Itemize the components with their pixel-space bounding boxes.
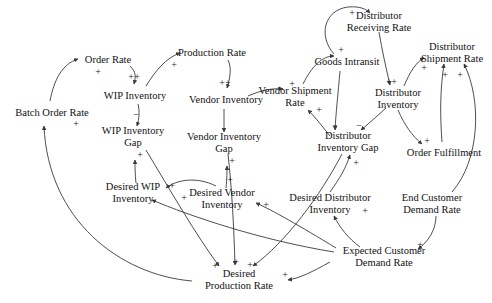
node-goods-intransit: Goods Intransit: [314, 56, 379, 68]
polarity-sign-wip-gap-inflow: −: [133, 110, 139, 120]
node-label-line: Vendor Inventory: [187, 131, 261, 143]
node-desired-distributor-inventory: Desired DistributorInventory: [289, 192, 370, 215]
polarity-sign-batch-order-rate-inflow: +: [73, 119, 79, 129]
polarity-sign-expected-demand-inflow: +: [417, 240, 423, 250]
node-label-line: Order Rate: [85, 54, 131, 66]
node-label-line: Inventory: [375, 98, 421, 110]
polarity-sign-wip-inventory-inflow-a: +: [128, 72, 134, 82]
node-label-line: Shipment Rate: [421, 52, 483, 64]
polarity-sign-desired-production-from-expected: +: [282, 270, 288, 280]
node-distributor-receiving-rate: DistributorReceiving Rate: [347, 10, 411, 33]
edge-dist-inventory-to-order-fulfillment: [398, 110, 422, 144]
node-label-line: WIP Inventory: [102, 125, 164, 137]
node-label-line: Inventory Gap: [318, 141, 379, 153]
node-label-line: Production Rate: [178, 47, 246, 59]
node-label-line: Vendor Inventory: [189, 94, 263, 106]
node-label-line: Demand Rate: [402, 203, 462, 215]
node-label-line: Production Rate: [205, 279, 273, 291]
node-label-line: Distributor: [347, 10, 411, 22]
node-distributor-shipment-rate: DistributorShipment Rate: [421, 41, 483, 64]
polarity-sign-dist-gap-from-desired: +: [353, 158, 359, 168]
polarity-sign-order-rate-inflow: +: [95, 67, 101, 77]
polarity-sign-distributor-receiving-inflow: +: [349, 8, 355, 18]
edge-expected-demand-to-desired-dist: [334, 216, 360, 247]
edge-end-demand-to-shipment-rate: [452, 64, 476, 192]
node-desired-wip-inventory: Desired WIPInventory: [106, 181, 160, 204]
polarity-sign-distributor-inventory-inflow-b: +: [391, 77, 397, 87]
polarity-sign-desired-production-inflow-c: +: [247, 260, 253, 270]
node-label-line: Desired WIP: [106, 181, 160, 193]
polarity-sign-wip-gap-from-desired: +: [137, 150, 143, 160]
node-label-line: Receiving Rate: [347, 21, 411, 33]
polarity-sign-production-rate-inflow: +: [171, 60, 177, 70]
node-label-line: Desired Vendor: [189, 187, 254, 199]
polarity-sign-dist-gap-from-inventory: −: [356, 121, 362, 131]
node-production-rate: Production Rate: [178, 47, 246, 59]
polarity-sign-order-fulfillment-inflow: +: [424, 136, 430, 146]
node-label-line: Demand Rate: [343, 256, 426, 268]
node-order-rate: Order Rate: [85, 54, 131, 66]
node-label-line: WIP Inventory: [104, 90, 166, 102]
polarity-sign-desired-distributor-inflow: +: [362, 206, 368, 216]
polarity-sign-vendor-inventory-inflow-a: +: [219, 78, 225, 88]
polarity-sign-distributor-shipment-inflow-b: +: [442, 70, 448, 80]
node-label-line: Expected Customer: [343, 245, 426, 257]
polarity-sign-desired-vendor-inflow: +: [263, 200, 269, 210]
polarity-sign-vendor-shipment-from-gap: +: [316, 105, 322, 115]
node-desired-vendor-inventory: Desired VendorInventory: [189, 187, 254, 210]
polarity-sign-vendor-inventory-inflow-b: +: [225, 78, 231, 88]
node-label-line: Gap: [187, 142, 261, 154]
polarity-sign-desired-wip-sign: +: [169, 181, 175, 191]
node-wip-inventory-gap: WIP InventoryGap: [102, 125, 164, 148]
node-label-line: Distributor: [421, 41, 483, 53]
node-label-line: Order Fulfillment: [407, 147, 481, 159]
node-distributor-inventory: DistributorInventory: [375, 87, 421, 110]
node-label-line: Distributor: [375, 87, 421, 99]
edge-expected-demand-to-desired-production: [288, 262, 330, 280]
edge-dist-inventory-to-dist-gap: [361, 108, 386, 130]
node-distributor-inventory-gap: DistributorInventory Gap: [318, 130, 379, 153]
node-vendor-inventory-gap: Vendor InventoryGap: [187, 131, 261, 154]
node-label-line: Inventory: [189, 198, 254, 210]
polarity-sign-desired-wip-inflow: +: [181, 193, 187, 203]
polarity-sign-wip-inventory-inflow-b: +: [134, 72, 140, 82]
node-label-line: End Customer: [402, 192, 462, 204]
polarity-sign-desired-vendor-up: +: [227, 175, 233, 185]
polarity-sign-goods-intransit-inflow: +: [338, 45, 344, 55]
node-label-line: Goods Intransit: [314, 56, 379, 68]
node-label-line: Distributor: [318, 130, 379, 142]
node-expected-customer-demand-rate: Expected CustomerDemand Rate: [343, 245, 426, 268]
node-order-fulfillment: Order Fulfillment: [407, 147, 481, 159]
node-end-customer-demand-rate: End CustomerDemand Rate: [402, 192, 462, 215]
polarity-sign-vendor-gap-from-desired: +: [229, 156, 235, 166]
node-label-line: Desired Distributor: [289, 192, 370, 204]
node-wip-inventory: WIP Inventory: [104, 90, 166, 102]
node-label-line: Inventory: [289, 203, 370, 215]
node-vendor-inventory: Vendor Inventory: [189, 94, 263, 106]
polarity-sign-distributor-shipment-inflow-a: +: [421, 63, 427, 73]
polarity-sign-dist-gap-from-intransit: −: [332, 121, 338, 131]
polarity-sign-distributor-shipment-inflow-c: +: [457, 70, 463, 80]
edge-desired-dist-to-dist-gap: [330, 155, 350, 192]
edge-desired-production-to-batch-order: [44, 126, 192, 281]
causal-loop-diagram: Batch Order RateOrder RateWIP InventoryW…: [0, 0, 492, 303]
edge-vendor-gap-to-desired-production: [228, 154, 235, 265]
polarity-sign-vendor-shipment-inflow: +: [289, 79, 295, 89]
node-label-line: Inventory: [106, 192, 160, 204]
polarity-sign-desired-production-inflow-b: +: [233, 257, 239, 267]
edge-batch-order-to-order-rate: [50, 59, 78, 101]
polarity-sign-desired-production-inflow-a: +: [212, 261, 218, 271]
node-label-line: Gap: [102, 136, 164, 148]
